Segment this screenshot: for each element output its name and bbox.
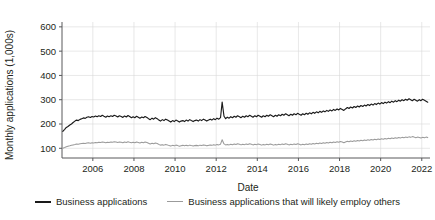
line-chart: 1002003004005006002006200820102012201420… — [0, 0, 435, 196]
legend-swatch-secondary — [167, 201, 183, 202]
y-axis-title: Monthly applications (1,000s) — [4, 30, 15, 160]
legend-label-secondary: Business applications that will likely e… — [188, 196, 400, 207]
svg-text:2022: 2022 — [411, 163, 432, 174]
svg-text:2020: 2020 — [370, 163, 391, 174]
svg-text:500: 500 — [40, 46, 56, 57]
svg-text:400: 400 — [40, 70, 56, 81]
chart-container: 1002003004005006002006200820102012201420… — [0, 0, 435, 220]
svg-text:2010: 2010 — [165, 163, 186, 174]
svg-text:2012: 2012 — [206, 163, 227, 174]
svg-text:200: 200 — [40, 118, 56, 129]
series-line-business-applications — [63, 99, 428, 132]
tick-labels: 1002003004005006002006200820102012201420… — [40, 21, 432, 174]
svg-text:2008: 2008 — [123, 163, 144, 174]
legend-item-likely-employ-others: Business applications that will likely e… — [167, 196, 400, 207]
data-series — [63, 99, 428, 149]
gridlines — [62, 22, 430, 158]
series-line-likely-employ-others — [63, 137, 428, 149]
svg-text:300: 300 — [40, 94, 56, 105]
chart-legend: Business applications Business applicati… — [0, 196, 435, 207]
svg-text:2014: 2014 — [247, 163, 268, 174]
legend-item-business-applications: Business applications — [35, 196, 147, 207]
axes — [62, 22, 430, 158]
svg-text:100: 100 — [40, 143, 56, 154]
svg-text:2016: 2016 — [288, 163, 309, 174]
svg-text:2006: 2006 — [82, 163, 103, 174]
legend-label-main: Business applications — [56, 196, 147, 207]
svg-text:2018: 2018 — [329, 163, 350, 174]
tick-marks — [59, 27, 422, 161]
svg-text:600: 600 — [40, 21, 56, 32]
x-axis-title: Date — [237, 182, 259, 193]
legend-swatch-main — [35, 201, 51, 203]
